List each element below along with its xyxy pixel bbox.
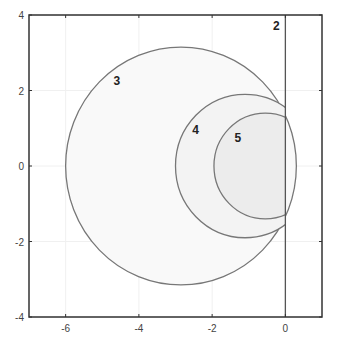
y-tick-label: 2: [18, 86, 24, 97]
y-tick-label: -2: [15, 237, 24, 248]
x-tick-label: 0: [283, 323, 289, 334]
region-label-3: 3: [114, 74, 121, 88]
stability-region-chart: -6-4-20 -4-2024 2345: [0, 0, 340, 350]
region-label-4: 4: [192, 123, 199, 137]
region-label-2: 2: [273, 19, 280, 33]
y-tick-label: -4: [15, 312, 24, 323]
regions: [66, 15, 317, 317]
x-tick-label: -2: [208, 323, 217, 334]
x-tick-label: -4: [134, 323, 143, 334]
y-tick-label: 0: [18, 161, 24, 172]
region-label-5: 5: [234, 131, 241, 145]
x-tick-label: -6: [61, 323, 70, 334]
y-tick-label: 4: [18, 10, 24, 21]
